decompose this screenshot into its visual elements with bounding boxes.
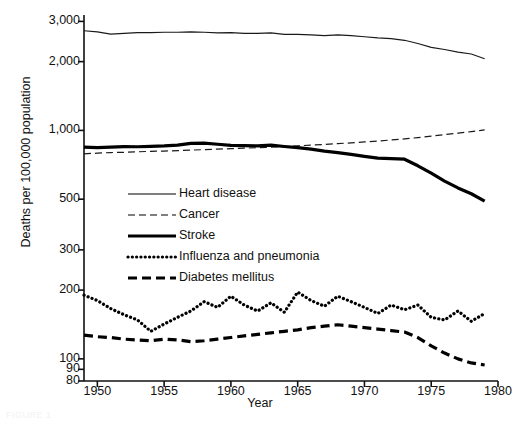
series-line — [84, 325, 485, 365]
y-tick-label: 2,000 — [49, 54, 80, 68]
y-axis-title: Deaths per 100,000 population — [19, 52, 33, 272]
x-tick-label: 1980 — [468, 384, 517, 398]
x-tick-label: 1970 — [334, 384, 394, 398]
legend-label: Cancer — [179, 207, 219, 221]
y-tick-label: 200 — [59, 282, 80, 296]
legend-label: Stroke — [179, 228, 215, 242]
x-tick-label: 1955 — [134, 384, 194, 398]
series-line — [84, 130, 485, 154]
series-line — [84, 31, 485, 59]
legend-label: Heart disease — [179, 186, 256, 200]
x-tick-label: 1975 — [401, 384, 461, 398]
series-line — [84, 292, 485, 331]
y-tick-label: 1,000 — [49, 122, 80, 136]
x-axis-title: Year — [190, 396, 330, 410]
legend-label: Influenza and pneumonia — [179, 249, 319, 263]
y-tick-label: 300 — [59, 242, 80, 256]
x-tick-label: 1965 — [268, 384, 328, 398]
y-tick-label: 3,000 — [49, 13, 80, 27]
y-tick-label: 500 — [59, 191, 80, 205]
figure-caption: FIGURE 1 — [6, 410, 52, 420]
legend-label: Diabetes mellitus — [179, 270, 274, 284]
x-tick-label: 1950 — [67, 384, 127, 398]
x-tick-label: 1960 — [201, 384, 261, 398]
